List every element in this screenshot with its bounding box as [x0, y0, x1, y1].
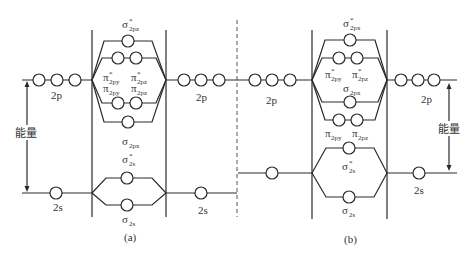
svg-text:*: * [358, 67, 362, 75]
ao-label-2s-right-b: 2s [414, 184, 424, 196]
svg-text:2s: 2s [349, 167, 356, 175]
pi-star-2p-path-b [312, 58, 387, 80]
mo-label-pi-2py-b: π 2py [325, 127, 342, 142]
svg-text:2pz: 2pz [137, 78, 147, 86]
mo-label-sigma-2p-b: σ 2px [343, 82, 361, 97]
mo-label-sigma-star-2s-b: σ * 2s [342, 159, 356, 175]
svg-text:2py: 2py [109, 78, 120, 86]
mo-sigma-star-2s-orbital-icon [121, 172, 133, 184]
ao-2s-orbital-icon [195, 187, 207, 199]
svg-text:2s: 2s [129, 160, 136, 168]
energy-arrow-b: 能量 [437, 83, 463, 171]
svg-text:σ: σ [343, 82, 349, 94]
svg-text:*: * [137, 70, 141, 78]
ao-2s-orbital-icon [413, 167, 425, 179]
ao-2p-orbital-icon [249, 74, 261, 86]
ao-2p-orbital-icon [428, 74, 440, 86]
energy-label-a: 能量 [15, 126, 37, 140]
mo-sigma-2p-orbital-icon [344, 96, 356, 108]
panel-a: 2p 2p 2s 2s σ * 2pz π * 2py π * 2pz π 2p… [14, 17, 237, 244]
ao-label-2p-left-a: 2p [51, 89, 63, 101]
mo-sigma-2s-orbital-icon [121, 199, 133, 211]
ao-label-2s-left-a: 2s [53, 201, 63, 213]
svg-text:*: * [350, 16, 354, 24]
mo-pi-2p-orbital-icon [112, 97, 124, 109]
mo-pi-star-2p-orbital-icon [112, 52, 124, 64]
mo-label-sigma-2s-a: σ 2s [122, 213, 136, 228]
svg-text:σ: σ [122, 18, 128, 30]
mo-sigma-star-2p-orbital-icon [122, 35, 134, 47]
mo-label-sigma-star-2s-a: σ * 2s [122, 152, 136, 168]
svg-text:2s: 2s [129, 220, 136, 228]
ao-label-2s-right-a: 2s [198, 204, 208, 216]
ao-2p-orbital-icon [213, 74, 225, 86]
caption-b: (b) [344, 233, 357, 246]
svg-text:2px: 2px [350, 89, 361, 97]
ao-2p-orbital-icon [51, 74, 63, 86]
mo-label-sigma-star-2p-b: σ * 2px [343, 16, 361, 32]
svg-text:2px: 2px [350, 24, 361, 32]
mo-pi-2p-orbital-icon [333, 114, 345, 126]
mo-label-sigma-star-2p-a: σ * 2pz [122, 17, 139, 33]
mo-label-sigma-2p-a: σ 2px [122, 135, 140, 150]
svg-text:2px: 2px [129, 142, 140, 150]
ao-2p-orbital-icon [266, 74, 278, 86]
mo-pi-star-2p-orbital-icon [130, 52, 142, 64]
svg-text:σ: σ [122, 153, 128, 165]
ao-2p-orbital-icon [195, 74, 207, 86]
svg-text:σ: σ [343, 17, 349, 29]
svg-text:σ: σ [342, 204, 348, 216]
mo-sigma-star-2p-orbital-icon [344, 34, 356, 46]
ao-label-2p-right-b: 2p [421, 93, 433, 105]
ao-2p-orbital-icon [412, 74, 424, 86]
svg-text:*: * [129, 17, 133, 25]
mo-label-pi-2pz-b: π 2pz [352, 127, 368, 142]
mo-pi-2p-orbital-icon [130, 97, 142, 109]
ao-2p-orbital-icon [395, 74, 407, 86]
svg-text:2py: 2py [109, 89, 120, 97]
svg-text:*: * [331, 67, 335, 75]
svg-text:2pz: 2pz [137, 89, 147, 97]
svg-text:2py: 2py [331, 75, 342, 83]
svg-text:*: * [109, 70, 113, 78]
svg-text:2pz: 2pz [129, 25, 139, 33]
svg-text:σ: σ [342, 160, 348, 172]
ao-label-2p-right-a: 2p [196, 91, 208, 103]
mo-label-pi-star-2pz-b: π * 2pz [352, 67, 368, 83]
mo-diagram-canvas: 2p 2p 2s 2s σ * 2pz π * 2py π * 2pz π 2p… [0, 0, 474, 260]
svg-text:σ: σ [122, 135, 128, 147]
svg-text:2py: 2py [331, 134, 342, 142]
svg-text:2pz: 2pz [358, 134, 368, 142]
svg-text:2s: 2s [349, 211, 356, 219]
ao-2p-orbital-icon [178, 74, 190, 86]
ao-2p-orbital-icon [69, 74, 81, 86]
energy-label-b: 能量 [438, 122, 460, 136]
ao-2s-orbital-icon [50, 187, 62, 199]
ao-2s-orbital-icon [266, 167, 278, 179]
svg-text:σ: σ [122, 213, 128, 225]
svg-text:2pz: 2pz [358, 75, 368, 83]
mo-pi-2p-orbital-icon [351, 114, 363, 126]
energy-arrow-a: 能量 [14, 81, 40, 192]
caption-a: (a) [124, 231, 137, 244]
ao-2p-orbital-icon [284, 74, 296, 86]
panel-b: 2p 2p 2s σ * 2px π * 2py π * 2pz σ 2px π… [237, 16, 463, 246]
svg-text:*: * [129, 152, 133, 160]
ao-2p-orbital-icon [33, 74, 45, 86]
mo-label-sigma-2s-b: σ 2s [342, 204, 356, 219]
mo-diagram: 2p 2p 2s 2s σ * 2pz π * 2py π * 2pz π 2p… [0, 0, 474, 260]
mo-sigma-star-2s-orbital-icon [343, 142, 355, 154]
mo-label-pi-star-2py-b: π * 2py [325, 67, 342, 83]
ao-label-2p-left-b: 2p [266, 94, 278, 106]
mo-sigma-2p-orbital-icon [122, 116, 134, 128]
svg-text:*: * [349, 159, 353, 167]
mo-pi-star-2p-orbital-icon [333, 52, 345, 64]
mo-sigma-2s-orbital-icon [343, 191, 355, 203]
mo-pi-star-2p-orbital-icon [351, 52, 363, 64]
